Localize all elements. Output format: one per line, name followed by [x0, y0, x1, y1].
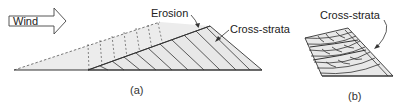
- cross-strata-diagram: Wind: [0, 0, 403, 105]
- cross-strata-label-b: Cross-strata: [320, 9, 381, 21]
- caption-b: (b): [348, 90, 361, 102]
- wind-label: Wind: [13, 15, 38, 27]
- cross-strata-label-a: Cross-strata: [230, 23, 291, 35]
- panel-b: Cross-strata (b): [305, 9, 393, 102]
- caption-a: (a): [130, 84, 143, 96]
- cross-strata-leader-b-icon: [377, 20, 387, 47]
- panel-a: Wind: [9, 7, 291, 96]
- erosion-label: Erosion: [151, 7, 188, 19]
